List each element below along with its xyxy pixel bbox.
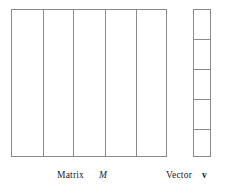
vector-caption-word: Vector (166, 170, 192, 180)
matrix-column-divider (43, 10, 44, 156)
matrix-symbol: M (99, 170, 107, 180)
matrix-caption-word: Matrix (57, 170, 84, 180)
matrix-column-divider (73, 10, 74, 156)
matrix-column-divider (105, 10, 106, 156)
vector-symbol: v (202, 170, 207, 180)
vector-row-divider (194, 69, 210, 70)
figure-canvas: MatrixM Vectorv (0, 0, 236, 192)
matrix-diagram (11, 9, 167, 157)
matrix-caption: MatrixM (57, 169, 107, 181)
matrix-column-divider (136, 10, 137, 156)
vector-row-divider (194, 99, 210, 100)
vector-row-divider (194, 39, 210, 40)
vector-row-divider (194, 129, 210, 130)
vector-caption: Vectorv (166, 169, 207, 181)
vector-diagram (193, 9, 211, 157)
